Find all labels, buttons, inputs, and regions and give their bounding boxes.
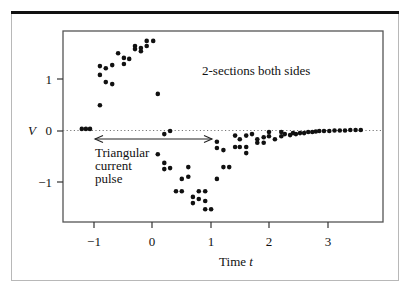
data-point <box>298 131 303 136</box>
data-point <box>174 189 179 194</box>
data-point <box>332 128 337 133</box>
data-point <box>127 57 132 62</box>
data-point <box>273 137 278 142</box>
data-point <box>180 177 185 182</box>
data-point <box>215 140 220 145</box>
x-axis-label: Time t <box>219 254 253 269</box>
data-point <box>233 133 238 138</box>
data-point <box>267 134 272 139</box>
data-point <box>168 129 173 134</box>
data-point <box>151 39 156 44</box>
x-tick-label: −1 <box>87 234 101 249</box>
data-point <box>261 135 266 140</box>
data-point <box>156 152 161 157</box>
pulse-duration-arrow <box>95 136 212 143</box>
data-point <box>209 207 214 212</box>
data-point <box>168 166 173 171</box>
data-point <box>238 145 243 150</box>
data-point <box>233 145 238 150</box>
data-point <box>215 177 220 182</box>
data-point <box>122 62 127 67</box>
y-axis-label: V <box>28 123 38 138</box>
data-point <box>180 189 185 194</box>
data-point <box>133 47 138 52</box>
section-note: 2-sections both sides <box>202 63 310 78</box>
data-point <box>116 51 121 56</box>
data-point <box>110 82 115 87</box>
data-point <box>306 130 311 135</box>
data-point <box>156 92 161 97</box>
data-point <box>191 201 196 206</box>
data-point <box>84 127 89 132</box>
data-point <box>250 132 255 137</box>
x-axis <box>94 222 328 228</box>
data-point <box>80 127 85 132</box>
data-point <box>104 80 109 85</box>
data-point <box>227 165 232 170</box>
data-point <box>317 129 322 134</box>
data-point <box>302 131 307 136</box>
data-point <box>98 64 103 69</box>
data-point <box>327 129 332 134</box>
x-tick-label: 1 <box>208 234 215 249</box>
data-point <box>197 197 202 202</box>
data-point <box>338 128 343 133</box>
data-point <box>191 195 196 200</box>
data-point <box>162 132 167 137</box>
data-point <box>203 199 208 204</box>
data-point <box>294 132 299 137</box>
chart: 1 0 −1 V −1 0 1 2 3 Time t 2-sections bo… <box>0 0 407 287</box>
data-point <box>186 165 191 170</box>
data-point <box>238 137 243 142</box>
data-point <box>353 128 358 133</box>
data-point <box>348 128 353 133</box>
pulse-label-line3: pulse <box>95 171 123 186</box>
data-point <box>144 39 149 44</box>
x-tick-label: 2 <box>266 234 273 249</box>
data-point <box>197 189 202 194</box>
y-tick-label: −1 <box>38 175 52 190</box>
plot-area <box>63 31 383 222</box>
data-point <box>244 145 249 150</box>
data-point <box>139 49 144 54</box>
data-point <box>162 167 167 172</box>
data-point <box>283 132 288 137</box>
data-point <box>98 103 103 108</box>
data-point <box>267 130 272 135</box>
data-point <box>144 44 149 49</box>
data-point <box>322 129 327 134</box>
data-point <box>255 141 260 146</box>
data-point <box>110 63 115 68</box>
data-point <box>359 128 364 133</box>
data-point <box>244 133 249 138</box>
data-point <box>98 73 103 78</box>
data-point <box>88 127 93 132</box>
data-point <box>203 189 208 194</box>
data-point <box>104 66 109 71</box>
data-point <box>186 175 191 180</box>
data-point <box>261 141 266 146</box>
data-point <box>122 56 127 61</box>
data-point <box>203 207 208 212</box>
data-point <box>215 146 220 151</box>
y-tick-label: 1 <box>46 72 53 87</box>
data-point <box>343 128 348 133</box>
data-point <box>221 148 226 153</box>
y-tick-label: 0 <box>46 123 53 138</box>
x-tick-label: 3 <box>325 234 332 249</box>
x-tick-label: 0 <box>149 234 156 249</box>
y-axis <box>57 79 63 182</box>
data-point <box>244 151 249 156</box>
data-point <box>221 165 226 170</box>
data-point <box>162 161 167 166</box>
